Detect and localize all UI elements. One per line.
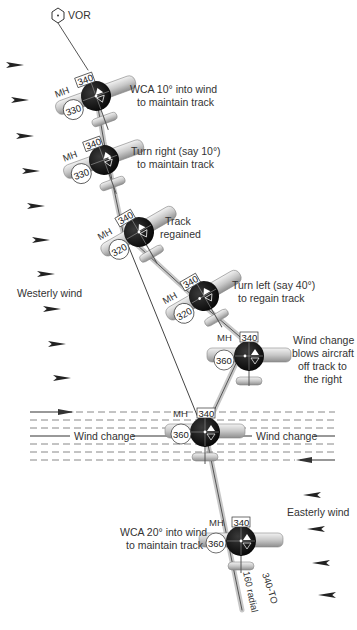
westerly-wind-label: Westerly wind [17, 287, 82, 299]
aircraft-7: 340 MH 360 [199, 517, 283, 574]
caption-7-line-2: to maintain track [126, 539, 204, 551]
caption-1-line-2: to maintain track [137, 96, 215, 108]
wind-change-label-left: Wind change [74, 430, 135, 442]
aircraft-6: 340 MH 360 [165, 408, 245, 465]
caption-4-line-1: Turn left (say 40°) [232, 279, 315, 291]
wind-change-label-right: Wind change [256, 430, 317, 442]
vor-label: VOR [68, 9, 91, 21]
easterly-wind-label: Easterly wind [287, 506, 350, 518]
wind-arrow-icon [307, 526, 325, 532]
wind-arrow-icon [27, 203, 45, 209]
course-value: 340 [234, 517, 250, 528]
heading-value: 360 [216, 355, 232, 366]
wind-arrow-icon [11, 97, 29, 103]
heading-value: 360 [208, 538, 224, 549]
wind-arrow-icon [37, 271, 55, 277]
caption-1-line-1: WCA 10° into wind [130, 83, 217, 95]
mh-label: MH [209, 517, 224, 528]
wind-arrow-icon [48, 341, 66, 347]
caption-5-line-3: off track to [298, 360, 347, 372]
wind-arrow-icon [16, 133, 34, 139]
radial-label: 160 radial [241, 570, 260, 613]
wind-arrow-icon [318, 592, 336, 598]
wind-arrow-icon [53, 375, 71, 381]
caption-4-line-2: to regain track [238, 292, 305, 304]
heading-value: 360 [173, 429, 189, 440]
vor-tracking-diagram: VOR Westerly wind [0, 0, 357, 630]
wind-arrow-icon [58, 409, 74, 415]
wind-arrow-icon [312, 560, 330, 566]
caption-7-line-1: WCA 20° into wind [120, 526, 207, 538]
caption-5-line-2: blows aircraft [292, 347, 354, 359]
wind-arrow-icon [303, 492, 321, 498]
caption-5-line-4: the right [304, 373, 342, 385]
caption-2-line-2: to maintain track [137, 158, 215, 170]
course-value: 340 [242, 332, 258, 343]
caption-5-line-1: Wind change [293, 334, 354, 346]
aircraft-1: 340 MH 330 [48, 59, 148, 145]
mh-label: MH [173, 408, 188, 419]
wind-arrow-icon [6, 62, 24, 68]
wind-arrow-icon [43, 306, 61, 312]
aircraft-5: 340 MH 360 [207, 332, 291, 387]
course-value: 340 [199, 408, 215, 419]
wind-arrow-icon [22, 168, 40, 174]
vor-station: VOR [52, 8, 91, 23]
wind-arrow-icon [296, 457, 312, 463]
course-label: 340-TO [260, 571, 280, 605]
caption-2-line-1: Turn right (say 10°) [131, 145, 221, 157]
mh-label: MH [217, 332, 232, 343]
caption-3-line-2: regained [160, 228, 201, 240]
caption-3-line-1: Track [165, 215, 192, 227]
wind-arrow-icon [32, 237, 50, 243]
